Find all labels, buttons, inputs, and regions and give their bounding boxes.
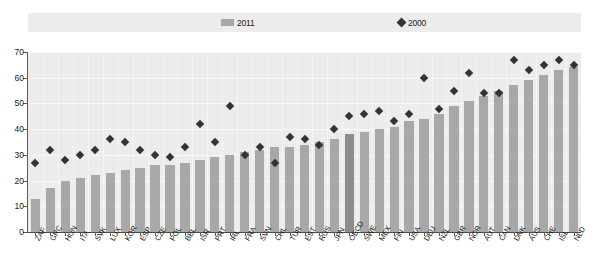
gridline: [28, 78, 581, 79]
bar-LUX: [106, 173, 115, 232]
bar-NLD: [569, 67, 578, 232]
bar-POL: [165, 165, 174, 232]
vertical-gridline: [73, 52, 74, 232]
vertical-gridline: [282, 52, 283, 232]
diamond-marker-FIN: [390, 117, 398, 125]
bar-DNK: [509, 85, 518, 232]
y-axis-tick-label: 30: [0, 150, 24, 160]
vertical-gridline: [267, 52, 268, 232]
vertical-gridline: [237, 52, 238, 232]
bar-ISR: [195, 160, 204, 232]
vertical-gridline: [88, 52, 89, 232]
diamond-marker-NZL: [435, 104, 443, 112]
diamond-marker-ESP: [136, 145, 144, 153]
bar-FIN: [390, 127, 399, 232]
vertical-gridline: [43, 52, 44, 232]
vertical-gridline: [506, 52, 507, 232]
diamond-marker-DNK: [509, 55, 517, 63]
chart-legend: 20112000: [28, 13, 581, 32]
vertical-gridline: [357, 52, 358, 232]
vertical-gridline: [476, 52, 477, 232]
legend-label: 2000: [408, 18, 426, 28]
diamond-marker-CZE: [151, 151, 159, 159]
bar-ISL: [554, 70, 563, 232]
bar-ITA: [76, 178, 85, 232]
y-axis-tick-label: 60: [0, 73, 24, 83]
diamond-marker-AUS: [524, 66, 532, 74]
diamond-marker-GRC: [46, 145, 54, 153]
vertical-gridline: [432, 52, 433, 232]
chart-title-clipped: [0, 0, 609, 11]
diamond-marker-EST: [300, 135, 308, 143]
diamond-marker-PRT: [211, 138, 219, 146]
y-axis-tick-label: 50: [0, 98, 24, 108]
diamond-marker-NOR: [465, 68, 473, 76]
bar-PRT: [210, 157, 219, 232]
vertical-gridline: [222, 52, 223, 232]
y-axis-tick-label: 40: [0, 124, 24, 134]
diamond-marker-ZAF: [31, 158, 39, 166]
vertical-gridline: [521, 52, 522, 232]
diamond-marker-ISL: [554, 55, 562, 63]
vertical-gridline: [461, 52, 462, 232]
bar-GRC: [46, 188, 55, 232]
vertical-gridline: [103, 52, 104, 232]
diamond-marker-OECD: [345, 112, 353, 120]
vertical-gridline: [372, 52, 373, 232]
bar-OECD: [345, 134, 354, 232]
bar-USA: [404, 121, 413, 232]
vertical-gridline: [491, 52, 492, 232]
diamond-marker-USA: [405, 109, 413, 117]
legend-bar-icon: [221, 19, 234, 26]
plot-area: [28, 52, 581, 232]
bar-DEU: [419, 119, 428, 232]
vertical-gridline: [342, 52, 343, 232]
bar-MEX: [375, 129, 384, 232]
y-axis-tick-label: 0: [0, 227, 24, 237]
bar-IRL: [225, 155, 234, 232]
bar-GBR: [449, 106, 458, 232]
diamond-marker-LUX: [106, 135, 114, 143]
y-axis-tick-label: 10: [0, 201, 24, 211]
bar-CZE: [150, 165, 159, 232]
diamond-marker-TUR: [285, 133, 293, 141]
vertical-gridline: [58, 52, 59, 232]
bar-EST: [300, 145, 309, 232]
vertical-gridline: [312, 52, 313, 232]
legend-item-2011[interactable]: 2011: [221, 18, 254, 28]
bar-AUS: [524, 80, 533, 232]
y-axis-tick-label: 20: [0, 176, 24, 186]
bar-NOR: [464, 101, 473, 232]
bar-CAN: [494, 91, 503, 232]
plot-area-wrapper: 010203040506070 ZAFGRCHUNITASVKLUXKORESP…: [0, 38, 609, 269]
bar-SVN: [255, 150, 264, 232]
vertical-gridline: [148, 52, 149, 232]
bar-JPN: [330, 139, 339, 232]
vertical-gridline: [446, 52, 447, 232]
diamond-marker-SVK: [91, 145, 99, 153]
diamond-marker-MEX: [375, 107, 383, 115]
diamond-marker-JPN: [330, 125, 338, 133]
diamond-marker-BEL: [181, 143, 189, 151]
diamond-marker-ISR: [196, 120, 204, 128]
chart-root: 20112000 010203040506070 ZAFGRCHUNITASVK…: [0, 0, 609, 269]
bar-FRA: [240, 152, 249, 232]
vertical-gridline: [192, 52, 193, 232]
diamond-marker-HUN: [61, 156, 69, 164]
bar-TUR: [285, 147, 294, 232]
bar-BEL: [180, 163, 189, 232]
bar-AUT: [479, 96, 488, 232]
gridline: [28, 52, 581, 53]
diamond-marker-ITA: [76, 151, 84, 159]
legend-item-2000[interactable]: 2000: [398, 18, 426, 28]
vertical-gridline: [297, 52, 298, 232]
y-axis-tick-label: 70: [0, 47, 24, 57]
vertical-gridline: [133, 52, 134, 232]
diamond-marker-SWE: [360, 109, 368, 117]
bar-RUS: [315, 142, 324, 232]
vertical-gridline: [417, 52, 418, 232]
bar-CHE: [539, 75, 548, 232]
legend-diamond-icon: [397, 18, 407, 28]
vertical-gridline: [118, 52, 119, 232]
diamond-marker-CHE: [539, 61, 547, 69]
